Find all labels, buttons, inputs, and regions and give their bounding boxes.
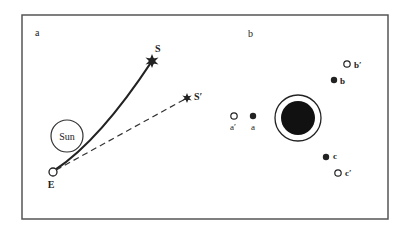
star-c-marker — [323, 154, 329, 160]
sun-label: Sun — [59, 131, 75, 142]
star-b-label: b — [340, 76, 345, 86]
star-a-label: a — [251, 122, 255, 132]
star-b-prime-label: b′ — [354, 60, 362, 70]
star-true-label: S — [155, 43, 161, 54]
apparent-light-path — [56, 98, 187, 170]
earth-circle — [49, 168, 57, 176]
panel-a: a Sun E S S′ — [35, 27, 203, 190]
star-apparent-label: S′ — [194, 91, 203, 102]
bent-light-path — [55, 61, 152, 170]
star-a-prime-label: a′ — [230, 122, 236, 132]
light-deflection-diagram: a Sun E S S′ b a′ a — [0, 0, 408, 235]
star-c-prime-label: c′ — [345, 168, 352, 178]
figure-border — [22, 15, 388, 219]
star-apparent-icon — [182, 93, 191, 103]
star-a-marker — [250, 113, 256, 119]
star-c-label: c — [333, 151, 337, 161]
panel-a-label: a — [35, 27, 40, 38]
panel-b-label: b — [248, 28, 253, 39]
panel-b: b a′ a b′ b c c′ — [230, 28, 362, 178]
earth-label: E — [48, 179, 55, 190]
star-a-prime-marker — [231, 113, 237, 119]
eclipse-moon-disk — [281, 101, 315, 135]
star-b-prime-marker — [344, 61, 350, 67]
star-b-marker — [331, 77, 337, 83]
star-c-prime-marker — [335, 170, 341, 176]
